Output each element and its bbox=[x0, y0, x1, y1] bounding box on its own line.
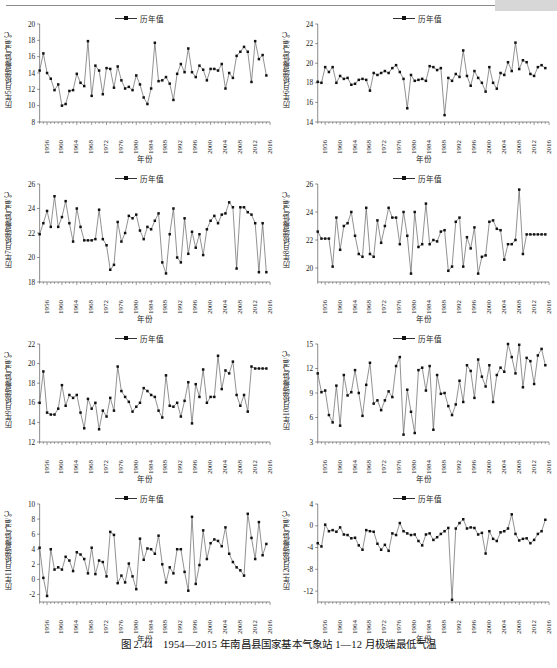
x-tick-label: 2008 bbox=[237, 460, 244, 474]
data-point-marker bbox=[176, 256, 178, 259]
y-axis-label: 历年12月极端最低气温/℃ bbox=[280, 490, 293, 608]
x-tick-label: 1980 bbox=[411, 620, 418, 634]
data-point-marker bbox=[105, 575, 107, 578]
data-point-marker bbox=[339, 424, 341, 427]
data-point-marker bbox=[109, 531, 111, 534]
x-tick-label: 1984 bbox=[148, 460, 155, 474]
data-point-marker bbox=[324, 237, 326, 240]
data-point-marker bbox=[53, 195, 55, 198]
data-point-marker bbox=[410, 411, 412, 414]
data-point-marker bbox=[191, 231, 193, 234]
y-tick-label: 18 bbox=[28, 278, 36, 287]
data-point-marker bbox=[116, 365, 118, 368]
data-point-marker bbox=[57, 226, 59, 229]
data-point-marker bbox=[232, 360, 234, 363]
data-point-marker bbox=[484, 254, 486, 257]
data-point-marker bbox=[165, 581, 167, 584]
data-point-marker bbox=[473, 527, 475, 530]
data-point-marker bbox=[68, 90, 70, 93]
x-tick-label: 1972 bbox=[103, 300, 110, 314]
data-point-marker bbox=[354, 369, 356, 372]
x-tick-label: 2000 bbox=[486, 460, 493, 474]
y-tick-label: 8 bbox=[32, 118, 36, 127]
data-point-marker bbox=[488, 221, 490, 224]
data-point-marker bbox=[68, 394, 70, 397]
data-point-marker bbox=[462, 265, 464, 268]
data-point-marker bbox=[458, 76, 460, 79]
x-tick-label: 2016 bbox=[546, 460, 553, 474]
data-point-marker bbox=[235, 267, 237, 270]
data-point-marker bbox=[339, 75, 341, 78]
data-point-marker bbox=[168, 82, 170, 85]
data-point-marker bbox=[161, 79, 163, 82]
data-point-marker bbox=[198, 233, 200, 236]
data-point-marker bbox=[451, 414, 453, 417]
x-tick-label: 1968 bbox=[88, 300, 95, 314]
data-point-marker bbox=[380, 242, 382, 245]
x-tick-label: 2016 bbox=[267, 620, 274, 634]
x-tick-label: 1960 bbox=[58, 300, 65, 314]
data-point-marker bbox=[518, 68, 520, 71]
data-point-marker bbox=[503, 74, 505, 77]
y-tick-label: 3 bbox=[310, 438, 314, 447]
data-point-marker bbox=[384, 70, 386, 73]
data-point-marker bbox=[466, 75, 468, 78]
x-tick-label: 2008 bbox=[516, 620, 523, 634]
data-point-marker bbox=[250, 365, 252, 368]
data-point-marker bbox=[150, 228, 152, 231]
x-tick-label: 2012 bbox=[531, 140, 538, 154]
x-tick-label: 2008 bbox=[516, 140, 523, 154]
data-point-marker bbox=[250, 537, 252, 540]
data-point-marker bbox=[384, 399, 386, 402]
line-chart-svg: -20246810 bbox=[16, 490, 274, 608]
data-point-marker bbox=[451, 599, 453, 602]
data-point-marker bbox=[350, 391, 352, 394]
x-axis-title: 年份 bbox=[294, 153, 553, 164]
data-point-marker bbox=[514, 239, 516, 242]
data-point-marker bbox=[64, 103, 66, 106]
x-tick-label: 2000 bbox=[486, 300, 493, 314]
data-point-marker bbox=[514, 533, 516, 536]
data-point-marker bbox=[161, 261, 163, 264]
data-point-marker bbox=[451, 80, 453, 83]
data-point-marker bbox=[165, 76, 167, 79]
data-point-marker bbox=[38, 546, 40, 549]
data-point-marker bbox=[172, 572, 174, 575]
y-tick-label: -12 bbox=[304, 587, 314, 596]
y-tick-label: 9 bbox=[310, 389, 314, 398]
data-point-marker bbox=[365, 207, 367, 210]
data-point-marker bbox=[146, 390, 148, 393]
data-point-marker bbox=[406, 388, 408, 391]
line-chart-svg: -12-8-404 bbox=[294, 490, 553, 608]
x-tick-label: 2012 bbox=[531, 300, 538, 314]
data-point-marker bbox=[265, 271, 267, 274]
y-tick-label: 4 bbox=[32, 545, 36, 554]
y-tick-label: 6 bbox=[32, 530, 36, 539]
data-point-marker bbox=[372, 256, 374, 258]
data-point-marker bbox=[98, 69, 100, 72]
data-point-marker bbox=[425, 80, 427, 83]
data-point-marker bbox=[202, 368, 204, 371]
data-point-marker bbox=[172, 99, 174, 102]
data-point-marker bbox=[42, 52, 44, 55]
x-tick-label: 1996 bbox=[471, 140, 478, 154]
data-point-marker bbox=[124, 396, 126, 399]
x-axis-tick-labels: 1956196019641968197219761980198419881992… bbox=[16, 128, 274, 154]
data-point-marker bbox=[168, 233, 170, 236]
data-point-marker bbox=[76, 394, 78, 397]
y-tick-label: 0 bbox=[310, 521, 314, 530]
y-tick-label: 18 bbox=[28, 36, 36, 45]
data-series-line bbox=[318, 514, 546, 599]
data-point-marker bbox=[354, 235, 356, 238]
x-tick-label: 1992 bbox=[177, 300, 184, 314]
data-point-marker bbox=[533, 383, 535, 386]
data-point-marker bbox=[68, 559, 70, 562]
x-tick-label: 1968 bbox=[366, 460, 373, 474]
data-point-marker bbox=[94, 573, 96, 576]
x-tick-label: 2016 bbox=[546, 300, 553, 314]
x-tick-label: 1956 bbox=[322, 460, 329, 474]
y-axis-label: 历年11月极端最低气温/℃ bbox=[2, 490, 15, 608]
data-point-marker bbox=[350, 84, 352, 87]
data-point-marker bbox=[105, 244, 107, 247]
data-point-marker bbox=[406, 107, 408, 110]
